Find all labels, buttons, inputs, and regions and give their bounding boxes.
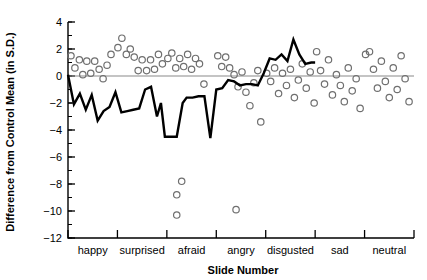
- data-point: [239, 69, 245, 75]
- data-point: [313, 49, 319, 55]
- y-tick-label: −12: [43, 232, 62, 244]
- scatter-points-group: [68, 35, 412, 218]
- data-point: [104, 62, 110, 68]
- data-point: [275, 90, 281, 96]
- data-point: [178, 178, 184, 184]
- data-point: [311, 100, 317, 106]
- data-point: [177, 55, 183, 61]
- data-point: [119, 35, 125, 41]
- data-point: [135, 67, 141, 73]
- data-point: [155, 51, 161, 57]
- data-point: [255, 67, 261, 73]
- x-category-label-surprised: surprised: [120, 244, 165, 256]
- data-point: [76, 57, 82, 63]
- data-point: [370, 66, 376, 72]
- data-point: [180, 63, 186, 69]
- data-point: [188, 66, 194, 72]
- data-point: [196, 61, 202, 67]
- data-point: [72, 65, 78, 71]
- data-point: [378, 58, 384, 64]
- data-point: [337, 82, 343, 88]
- data-point: [267, 78, 273, 84]
- y-tick-label: −4: [49, 124, 62, 136]
- data-point: [127, 46, 133, 52]
- y-tick-label: 0: [56, 70, 62, 82]
- data-point: [271, 65, 277, 71]
- data-point: [80, 71, 86, 77]
- data-point: [357, 105, 363, 111]
- data-point: [174, 212, 180, 218]
- data-point: [291, 94, 297, 100]
- data-point: [382, 78, 388, 84]
- x-category-label-happy: happy: [78, 244, 108, 256]
- data-point: [345, 65, 351, 71]
- y-tick-label: −2: [49, 97, 62, 109]
- data-point: [258, 119, 264, 125]
- x-category-label-neutral: neutral: [372, 244, 406, 256]
- data-point: [390, 65, 396, 71]
- data-point: [349, 88, 355, 94]
- data-point: [215, 53, 221, 59]
- data-point: [374, 85, 380, 91]
- data-point: [398, 53, 404, 59]
- data-point: [394, 86, 400, 92]
- data-point: [143, 67, 149, 73]
- y-tick-label: −6: [49, 151, 62, 163]
- data-point: [184, 51, 190, 57]
- data-point: [406, 98, 412, 104]
- data-point: [169, 50, 175, 56]
- y-tick-label: 2: [56, 43, 62, 55]
- data-point: [84, 58, 90, 64]
- x-axis-ticks: [68, 230, 414, 238]
- data-point: [303, 85, 309, 91]
- data-point: [233, 206, 239, 212]
- data-point: [295, 77, 301, 83]
- data-point: [333, 71, 339, 77]
- data-point: [147, 57, 153, 63]
- data-point: [96, 66, 102, 72]
- figure-container: 420−2−4−6−8−10−12 happysurprisedafraidan…: [0, 0, 427, 280]
- data-point: [219, 63, 225, 69]
- data-point: [108, 51, 114, 57]
- data-point: [139, 57, 145, 63]
- data-point: [321, 81, 327, 87]
- data-point: [131, 54, 137, 60]
- data-point: [325, 57, 331, 63]
- data-point: [386, 94, 392, 100]
- data-point: [247, 103, 253, 109]
- data-point: [341, 98, 347, 104]
- mean-difference-line: [68, 40, 315, 139]
- x-category-label-sad: sad: [331, 244, 349, 256]
- scatter-chart: 420−2−4−6−8−10−12 happysurprisedafraidan…: [0, 0, 427, 280]
- data-point: [115, 44, 121, 50]
- data-point: [231, 71, 237, 77]
- y-axis-tick-labels: 420−2−4−6−8−10−12: [43, 16, 62, 244]
- x-axis-category-labels: happysurprisedafraidangrydisgustedsadneu…: [78, 244, 406, 256]
- x-axis-title: Slide Number: [208, 264, 280, 276]
- y-tick-label: −10: [43, 205, 62, 217]
- x-category-label-disgusted: disgusted: [267, 244, 314, 256]
- x-category-label-angry: angry: [227, 244, 255, 256]
- data-point: [329, 92, 335, 98]
- y-tick-label: −8: [49, 178, 62, 190]
- data-point: [287, 66, 293, 72]
- data-point: [91, 58, 97, 64]
- data-point: [283, 82, 289, 88]
- data-point: [174, 192, 180, 198]
- data-point: [243, 89, 249, 95]
- data-point: [201, 81, 207, 87]
- data-point: [68, 53, 74, 59]
- data-point: [173, 65, 179, 71]
- data-point: [159, 61, 165, 67]
- data-point: [226, 65, 232, 71]
- data-point: [317, 67, 323, 73]
- data-point: [222, 54, 228, 60]
- y-tick-label: 4: [56, 16, 62, 28]
- y-axis-title: Difference from Control Mean (in S.D.): [4, 32, 16, 232]
- data-point: [307, 69, 313, 75]
- x-category-label-afraid: afraid: [178, 244, 206, 256]
- data-point: [151, 66, 157, 72]
